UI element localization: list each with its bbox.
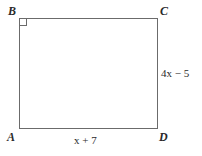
vertex-label-d: D xyxy=(159,131,168,143)
vertex-label-b: B xyxy=(8,5,16,17)
geometry-figure: B C A D 4x − 5 x + 7 xyxy=(0,0,202,156)
vertex-label-c: C xyxy=(160,5,168,17)
rectangle-side-bc xyxy=(19,18,158,19)
rectangle-side-cd xyxy=(157,18,158,129)
side-length-label-bottom: x + 7 xyxy=(74,134,97,146)
vertex-label-a: A xyxy=(7,131,15,143)
right-angle-square-icon xyxy=(20,19,27,26)
rectangle-side-ad xyxy=(19,128,158,129)
side-length-label-right: 4x − 5 xyxy=(161,67,189,79)
rectangle-side-ab xyxy=(19,18,20,129)
